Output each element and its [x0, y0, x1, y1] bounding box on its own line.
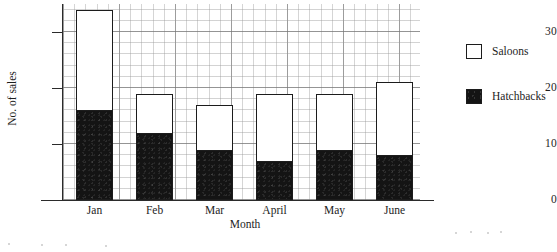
y-tick-label-0: 0 — [511, 194, 557, 206]
scan-speckle — [41, 244, 43, 246]
bar-segment-hatchbacks-june — [376, 155, 413, 200]
scan-speckle — [455, 232, 457, 234]
legend-label-saloons: Saloons — [492, 44, 528, 59]
scan-speckle — [105, 245, 107, 247]
bar-segment-saloons-june — [376, 82, 413, 155]
bar-chart: 30 20 10 0 JanFebMarAprilMayJune Month N… — [0, 0, 557, 252]
y-tick-10 — [52, 144, 63, 145]
y-tick-30 — [52, 32, 63, 33]
bar-segment-saloons-jan — [76, 10, 113, 111]
y-tick-label-10: 10 — [511, 138, 557, 150]
bar-mar — [196, 105, 233, 200]
scan-speckle — [500, 231, 502, 233]
bar-segment-hatchbacks-feb — [136, 133, 173, 200]
scan-speckle — [8, 243, 10, 245]
bar-may — [316, 94, 353, 200]
bar-april — [256, 94, 293, 200]
scan-speckle — [470, 231, 472, 233]
legend-swatch-saloons-icon — [466, 44, 482, 59]
x-axis-line — [41, 200, 434, 201]
bar-jan — [76, 10, 113, 200]
bar-segment-hatchbacks-may — [316, 150, 353, 200]
plot-area-grid — [63, 4, 420, 200]
bar-segment-saloons-may — [316, 94, 353, 150]
y-axis-title: No. of sales — [6, 59, 19, 139]
x-axis-label-june: June — [360, 204, 430, 217]
bar-feb — [136, 94, 173, 200]
bar-segment-hatchbacks-mar — [196, 150, 233, 200]
y-tick-20 — [52, 88, 63, 89]
x-axis-title: Month — [185, 218, 305, 231]
bar-segment-hatchbacks-april — [256, 161, 293, 200]
legend-label-hatchbacks: Hatchbacks — [492, 89, 546, 104]
y-tick-0 — [52, 200, 63, 201]
legend-swatch-hatchbacks-icon — [466, 89, 482, 104]
bar-segment-saloons-april — [256, 94, 293, 161]
bar-segment-saloons-feb — [136, 94, 173, 133]
scan-speckle — [65, 244, 67, 246]
bar-segment-hatchbacks-jan — [76, 110, 113, 200]
bar-segment-saloons-mar — [196, 105, 233, 150]
y-tick-label-30: 30 — [511, 26, 557, 38]
bar-june — [376, 82, 413, 200]
y-axis-line — [62, 4, 63, 201]
scan-speckle — [487, 232, 489, 234]
